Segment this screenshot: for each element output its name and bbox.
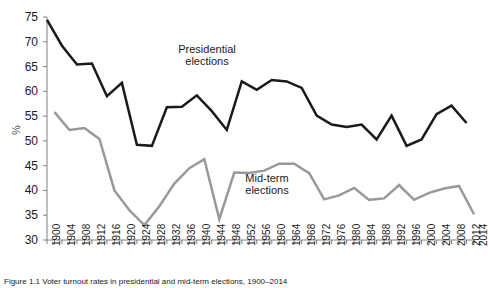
annotation-midterm-line1: Mid-term	[222, 172, 312, 184]
y-tick-75: 75	[8, 10, 38, 24]
y-tick-70: 70	[8, 35, 38, 49]
x-tick-1952: 1952	[246, 224, 257, 246]
x-tick-1984: 1984	[366, 224, 377, 246]
x-tick-1908: 1908	[81, 224, 92, 246]
x-tick-1992: 1992	[396, 224, 407, 246]
annotation-presidential-line1: Presidential	[152, 43, 262, 55]
y-tick-60: 60	[8, 84, 38, 98]
x-tick-1916: 1916	[111, 224, 122, 246]
x-tick-1920: 1920	[126, 224, 137, 246]
x-tick-1964: 1964	[291, 224, 302, 246]
y-tick-45: 45	[8, 159, 38, 173]
annotation-presidential-line2: elections	[152, 55, 262, 67]
figure-caption: Figure 1.1 Voter turnout rates in presid…	[4, 277, 478, 288]
y-tick-50: 50	[8, 134, 38, 148]
annotation-midterm-elections: Mid-term elections	[222, 172, 312, 196]
x-tick-1948: 1948	[231, 224, 242, 246]
y-tick-40: 40	[8, 183, 38, 197]
annotation-midterm-line2: elections	[222, 184, 312, 196]
x-tick-1928: 1928	[156, 224, 167, 246]
x-tick-1944: 1944	[216, 224, 227, 246]
x-tick-1936: 1936	[186, 224, 197, 246]
x-tick-1940: 1940	[201, 224, 212, 246]
y-tick-55: 55	[8, 109, 38, 123]
y-tick-30: 30	[8, 233, 38, 247]
x-tick-2000: 2000	[426, 224, 437, 246]
x-tick-2014: 2014	[478, 224, 489, 246]
x-tick-1932: 1932	[171, 224, 182, 246]
annotation-presidential-elections: Presidential elections	[152, 43, 262, 67]
x-tick-1996: 1996	[411, 224, 422, 246]
x-tick-1980: 1980	[351, 224, 362, 246]
x-tick-2008: 2008	[456, 224, 467, 246]
y-tick-35: 35	[8, 208, 38, 222]
x-tick-1900: 1900	[51, 224, 62, 246]
y-tick-65: 65	[8, 60, 38, 74]
x-tick-1972: 1972	[321, 224, 332, 246]
x-tick-1960: 1960	[276, 224, 287, 246]
x-tick-1976: 1976	[336, 224, 347, 246]
x-tick-1904: 1904	[66, 224, 77, 246]
x-tick-1924: 1924	[141, 224, 152, 246]
x-tick-1988: 1988	[381, 224, 392, 246]
x-tick-1912: 1912	[96, 224, 107, 246]
x-tick-1956: 1956	[261, 224, 272, 246]
x-tick-1968: 1968	[306, 224, 317, 246]
x-tick-2004: 2004	[441, 224, 452, 246]
